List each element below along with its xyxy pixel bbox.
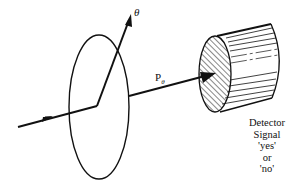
- detector-label-line: Signal: [232, 129, 302, 141]
- incoming-beam-arrow: [18, 106, 97, 127]
- p-theta-label: Pθ: [155, 71, 165, 86]
- polarization-diagram: θ Pθ Detector Signal 'yes' or 'no': [0, 0, 302, 191]
- detector-label-line: Detector: [232, 117, 302, 129]
- detector-cylinder: [199, 24, 279, 112]
- detector-signal-label: Detector Signal 'yes' or 'no': [232, 117, 302, 175]
- detector-face: [199, 36, 231, 112]
- detector-label-line: or: [232, 152, 302, 164]
- detector-label-line: 'yes': [232, 140, 302, 152]
- p-subscript: θ: [161, 78, 164, 86]
- theta-axis-arrow: [97, 14, 132, 106]
- polarizer-disk: [69, 35, 129, 179]
- detector-label-line: 'no': [232, 163, 302, 175]
- theta-label: θ: [134, 6, 139, 18]
